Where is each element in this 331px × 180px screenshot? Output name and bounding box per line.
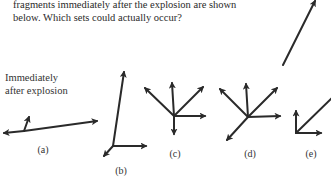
arrow-icon <box>113 72 124 146</box>
arrow-icon <box>4 131 24 133</box>
figure-label-d: (d) <box>244 148 256 159</box>
arrow-icon <box>220 89 248 117</box>
figure-a-vectors <box>4 117 97 133</box>
arrow-icon <box>174 87 203 116</box>
arrow-icon <box>104 146 113 156</box>
arrow-icon <box>248 116 280 117</box>
arrow-icon <box>24 121 97 131</box>
arrow-icon <box>227 117 248 140</box>
figure-label-c: (c) <box>169 148 180 159</box>
figure-d-vectors <box>220 84 280 140</box>
arrow-icon <box>24 117 29 131</box>
figure-b-vectors <box>104 72 146 156</box>
figure-label-a: (a) <box>37 144 48 155</box>
figure-label-b: (b) <box>115 165 127 176</box>
figure-c-vectors <box>145 83 205 134</box>
arrow-icon <box>248 88 277 117</box>
arrow-icon <box>246 84 248 117</box>
arrow-icon <box>296 98 331 133</box>
momentum-vector-diagrams <box>0 0 331 180</box>
arrow-icon <box>283 1 315 65</box>
arrow-icon <box>172 83 174 116</box>
figure-e-vectors <box>283 1 331 133</box>
arrow-icon <box>145 88 174 116</box>
figure-label-e: (e) <box>305 148 316 159</box>
